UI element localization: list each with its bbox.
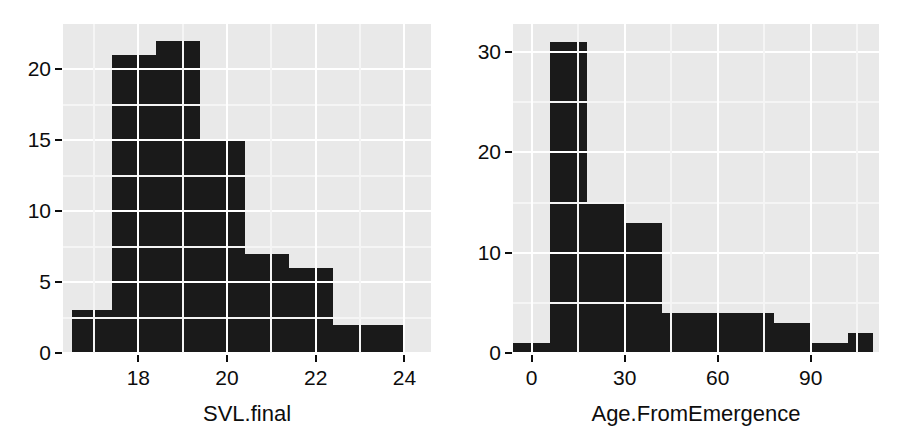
gridline-vertical-major xyxy=(624,24,626,353)
gridline-horizontal-minor xyxy=(513,202,879,204)
y-tick-mark xyxy=(505,252,512,254)
gridline-vertical-major xyxy=(810,24,812,353)
histogram-bar xyxy=(587,203,624,353)
y-tick-label: 20 xyxy=(457,141,501,162)
x-tick-label: 18 xyxy=(108,367,168,388)
x-tick-label: 22 xyxy=(286,367,346,388)
x-tick-label: 24 xyxy=(374,367,434,388)
plot-panel-age-from-emergence xyxy=(513,24,879,353)
x-tick-mark xyxy=(137,355,139,362)
histogram-bar xyxy=(848,333,873,353)
gridline-vertical-minor xyxy=(359,24,361,353)
y-tick-label: 0 xyxy=(7,342,51,363)
gridline-horizontal-minor xyxy=(513,302,879,304)
gridline-horizontal-major xyxy=(513,151,879,153)
x-axis-title-svl-final: SVL.final xyxy=(63,401,431,427)
histogram-bar xyxy=(333,325,377,353)
y-tick-label: 5 xyxy=(7,271,51,292)
histogram-bar xyxy=(378,325,405,353)
y-tick-mark xyxy=(505,352,512,354)
x-tick-mark xyxy=(531,355,533,362)
y-tick-label: 0 xyxy=(457,342,501,363)
gridline-vertical-major xyxy=(403,24,405,353)
gridline-horizontal-major xyxy=(63,352,431,353)
gridline-vertical-minor xyxy=(670,24,672,353)
gridline-horizontal-minor xyxy=(63,246,431,248)
x-tick-label: 20 xyxy=(197,367,257,388)
gridline-vertical-minor xyxy=(182,24,184,353)
y-tick-mark xyxy=(55,281,62,283)
gridline-horizontal-minor xyxy=(513,101,879,103)
y-tick-label: 10 xyxy=(457,242,501,263)
x-tick-mark xyxy=(624,355,626,362)
y-tick-label: 10 xyxy=(7,200,51,221)
histogram-bar xyxy=(112,55,156,353)
x-tick-mark xyxy=(315,355,317,362)
gridline-horizontal-major xyxy=(513,51,879,53)
gridline-vertical-major xyxy=(315,24,317,353)
bars-svl-final xyxy=(63,24,431,353)
x-tick-label: 90 xyxy=(781,367,841,388)
histogram-bar xyxy=(245,254,289,353)
y-tick-label: 30 xyxy=(457,41,501,62)
histogram-bar xyxy=(625,223,662,353)
gridline-vertical-major xyxy=(226,24,228,353)
histogram-bar xyxy=(774,323,811,353)
histogram-bar xyxy=(550,42,587,353)
facet-age-from-emergence: 0102030 0306090 Age.FromEmergence xyxy=(455,0,909,443)
y-tick-label: 15 xyxy=(7,129,51,150)
histogram-bar xyxy=(662,313,699,353)
gridline-vertical-major xyxy=(137,24,139,353)
gridline-vertical-minor xyxy=(93,24,95,353)
y-tick-label: 20 xyxy=(7,58,51,79)
y-tick-mark xyxy=(505,151,512,153)
y-tick-mark xyxy=(55,352,62,354)
x-tick-label: 0 xyxy=(502,367,562,388)
y-tick-mark xyxy=(55,68,62,70)
histogram-bar xyxy=(156,41,200,353)
gridline-vertical-minor xyxy=(856,24,858,353)
x-tick-mark xyxy=(810,355,812,362)
x-tick-mark xyxy=(226,355,228,362)
gridline-horizontal-major xyxy=(513,352,879,353)
gridline-horizontal-minor xyxy=(63,175,431,177)
gridline-horizontal-minor xyxy=(63,104,431,106)
x-tick-mark xyxy=(403,355,405,362)
gridline-horizontal-major xyxy=(63,210,431,212)
y-tick-mark xyxy=(505,51,512,53)
gridline-horizontal-major xyxy=(63,68,431,70)
gridline-vertical-minor xyxy=(270,24,272,353)
gridline-vertical-major xyxy=(531,24,533,353)
gridline-horizontal-minor xyxy=(63,317,431,319)
x-tick-mark xyxy=(717,355,719,362)
gridline-horizontal-major xyxy=(513,252,879,254)
facet-svl-final: 05101520 18202224 SVL.final xyxy=(0,0,455,443)
plot-panel-svl-final xyxy=(63,24,431,353)
gridline-horizontal-major xyxy=(63,139,431,141)
gridline-horizontal-major xyxy=(63,281,431,283)
gridline-vertical-major xyxy=(717,24,719,353)
figure-container: 05101520 18202224 SVL.final 0102030 0306… xyxy=(0,0,909,443)
x-tick-label: 30 xyxy=(595,367,655,388)
y-tick-mark xyxy=(55,139,62,141)
x-axis-title-age-from-emergence: Age.FromEmergence xyxy=(513,401,879,427)
gridline-vertical-minor xyxy=(577,24,579,353)
gridline-vertical-minor xyxy=(763,24,765,353)
x-tick-label: 60 xyxy=(688,367,748,388)
histogram-bar xyxy=(736,313,773,353)
y-tick-mark xyxy=(55,210,62,212)
